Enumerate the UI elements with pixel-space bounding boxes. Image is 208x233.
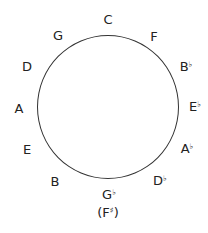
key-label-d: D (22, 60, 32, 73)
note-letter: E (189, 99, 197, 114)
note-letter: A (181, 141, 190, 156)
key-label-d-flat: D♭ (153, 174, 167, 187)
note-letter: F (150, 29, 157, 44)
flat-icon: ♭ (189, 60, 193, 69)
note-letter: G (53, 28, 63, 43)
note-letter: D (22, 59, 32, 74)
key-label-g-flat: G♭ (102, 188, 116, 201)
note-letter: B (51, 174, 60, 189)
note-letter: B (180, 59, 189, 74)
note-letter: E (23, 142, 31, 157)
key-label-c: C (103, 13, 112, 26)
key-label-b: B (51, 175, 60, 188)
note-letter: C (103, 12, 112, 27)
key-label-e-flat: E♭ (189, 100, 201, 113)
enharmonic-close: ) (114, 205, 119, 220)
enharmonic-label-f-sharp: (F♯) (97, 206, 119, 219)
note-letter: D (153, 173, 163, 188)
key-label-g: G (53, 29, 63, 42)
flat-icon: ♭ (190, 142, 194, 151)
key-label-a-flat: A♭ (181, 142, 194, 155)
circle-of-fifths-diagram: C F B♭ E♭ A♭ D♭ G♭ (F♯) B E A D G (0, 0, 208, 233)
note-letter: A (15, 101, 24, 116)
key-label-a: A (15, 102, 24, 115)
flat-icon: ♭ (163, 174, 167, 183)
key-label-b-flat: B♭ (180, 60, 193, 73)
enharmonic-open: (F (97, 205, 110, 220)
circle-outline (37, 35, 179, 179)
flat-icon: ♭ (197, 100, 201, 109)
note-letter: G (102, 187, 112, 202)
key-label-e: E (23, 143, 31, 156)
flat-icon: ♭ (112, 188, 116, 197)
key-label-f: F (150, 30, 157, 43)
